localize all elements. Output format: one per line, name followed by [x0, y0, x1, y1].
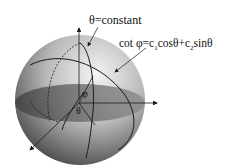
- sin-term: sinθ: [194, 37, 213, 49]
- cot-prefix: cot φ=c: [119, 37, 154, 49]
- cot-phi-equation-label: cot φ=c1cosθ+c2sinθ: [119, 38, 213, 52]
- theta-constant-label: θ=constant: [89, 14, 142, 26]
- theta-angle-label: θ: [76, 106, 81, 116]
- cos-term: cosθ+c: [158, 37, 190, 49]
- phi-angle-label: φ: [82, 89, 88, 99]
